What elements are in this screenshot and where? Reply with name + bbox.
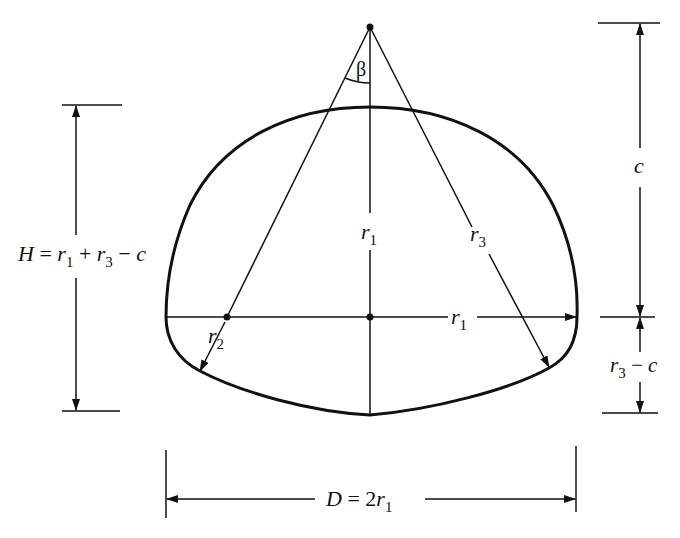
apex-to-r2-line <box>227 27 370 317</box>
ovoid-outline <box>166 107 577 415</box>
beta-label: β <box>356 58 366 81</box>
r3-line-upper <box>370 27 472 227</box>
D-formula-label: D = 2r1 <box>325 486 392 515</box>
r1-horizontal-label: r1 <box>451 304 467 333</box>
center-point <box>367 314 374 321</box>
ovoid-section-diagram: β r1 r1 r2 r3 c H = r1 + r3 − c r3 − c D… <box>0 0 680 538</box>
r3-label: r3 <box>470 221 486 250</box>
r1-vertical-label: r1 <box>361 219 377 248</box>
H-formula-label: H = r1 + r3 − c <box>17 241 146 270</box>
r3-line-lower <box>489 254 549 367</box>
c-label: c <box>634 153 644 178</box>
r3-minus-c-label: r3 − c <box>610 353 658 381</box>
